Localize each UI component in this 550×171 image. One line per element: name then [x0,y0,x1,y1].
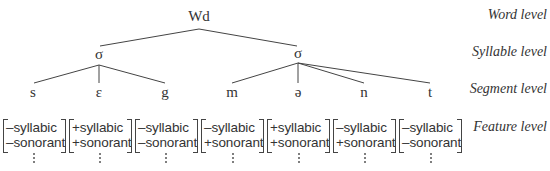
segment-node-schwa: ə [295,84,302,100]
feature-sonorant: –sonorant [402,136,461,150]
segment-node-epsilon: ε [96,84,102,100]
level-label-word: Word level [488,7,547,23]
level-label-segment: Segment level [470,81,547,97]
feature-matrix-g: –syllabic –sonorant [135,119,198,152]
branch-syl1-s [34,65,99,83]
vertical-ellipsis-icon [231,153,235,167]
branch-syl2-t [298,63,430,83]
feature-matrix-epsilon: +syllabic +sonorant [69,119,132,152]
feature-matrix-n: –syllabic +sonorant [333,119,396,152]
right-bracket [457,119,462,153]
branch-syl2-m [232,63,298,83]
right-bracket [391,119,396,153]
word-node: Wd [188,8,210,24]
vertical-ellipsis-icon [32,153,36,167]
feature-sonorant: +sonorant [336,136,396,150]
segment-node-g: g [161,84,169,100]
feature-sonorant: +sonorant [270,136,330,150]
segment-node-m: m [226,84,238,100]
feature-syllabic: +syllabic [270,121,321,135]
segment-node-s: s [30,84,36,100]
feature-matrix-t: –syllabic –sonorant [399,119,462,152]
level-label-feature: Feature level [473,119,547,135]
feature-sonorant: +sonorant [204,136,264,150]
segment-node-t: t [428,84,432,100]
branch-wd-syllable-1 [100,29,199,46]
feature-syllabic: –syllabic [6,121,57,135]
feature-matrix-schwa: +syllabic +sonorant [267,119,330,152]
syllable-node-2: σ [294,45,302,61]
feature-syllabic: –syllabic [336,121,387,135]
feature-sonorant: –sonorant [138,136,197,150]
branch-syl1-g [99,65,165,83]
feature-matrix-m: –syllabic +sonorant [201,119,264,152]
vertical-ellipsis-icon [98,153,102,167]
feature-syllabic: +syllabic [72,121,123,135]
vertical-ellipsis-icon [164,153,168,167]
vertical-ellipsis-icon [363,153,367,167]
right-bracket [127,119,132,153]
segment-node-n: n [360,84,368,100]
feature-syllabic: –syllabic [138,121,189,135]
feature-sonorant: –sonorant [6,136,65,150]
syllable-node-1: σ [95,46,103,62]
level-label-syllable: Syllable level [472,44,547,60]
feature-matrix-s: –syllabic –sonorant [3,119,66,152]
right-bracket [193,119,198,153]
right-bracket [259,119,264,153]
right-bracket [61,119,66,153]
feature-sonorant: +sonorant [72,136,132,150]
right-bracket [325,119,330,153]
feature-syllabic: –syllabic [402,121,453,135]
branch-wd-syllable-2 [199,29,297,46]
vertical-ellipsis-icon [297,153,301,167]
branch-syl2-n [298,63,364,83]
feature-syllabic: –syllabic [204,121,255,135]
vertical-ellipsis-icon [429,153,433,167]
